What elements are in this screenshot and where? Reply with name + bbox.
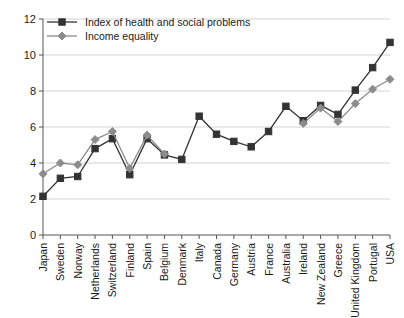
- y-tick-label: 0: [30, 229, 36, 241]
- data-point-marker: [92, 145, 98, 151]
- data-point-marker: [59, 19, 65, 25]
- legend-item: Income equality: [47, 30, 159, 42]
- y-axis: 024681012: [24, 13, 43, 241]
- data-point-marker: [74, 161, 82, 169]
- x-category-label: Netherlands: [89, 243, 101, 300]
- chart-container: 024681012 JapanSwedenNorwayNetherlandsSw…: [0, 0, 404, 318]
- data-point-marker: [196, 113, 202, 119]
- data-point-marker: [352, 87, 358, 93]
- data-point-marker: [40, 193, 46, 199]
- x-category-label: Greece: [332, 243, 344, 278]
- data-point-marker: [386, 75, 394, 83]
- data-point-marker: [108, 128, 116, 136]
- x-category-label: Canada: [211, 243, 223, 280]
- x-category-label: Portugal: [367, 243, 379, 282]
- data-point-marker: [56, 159, 64, 167]
- gridlines: [43, 19, 390, 199]
- legend-item: Index of health and social problems: [47, 16, 250, 28]
- data-point-marker: [75, 173, 81, 179]
- x-category-label: Spain: [141, 243, 153, 270]
- data-point-marker: [213, 131, 219, 137]
- legend-label: Index of health and social problems: [85, 16, 250, 28]
- y-tick-label: 10: [24, 49, 36, 61]
- data-point-marker: [179, 156, 185, 162]
- x-category-label: Switzerland: [106, 243, 118, 297]
- data-point-marker: [248, 144, 254, 150]
- data-point-marker: [335, 111, 341, 117]
- x-category-label: Sweden: [54, 243, 66, 281]
- x-category-label: New Zealand: [315, 243, 327, 305]
- x-category-label: Denmark: [176, 242, 188, 285]
- x-category-label: Ireland: [297, 243, 309, 275]
- y-tick-label: 12: [24, 13, 36, 25]
- x-category-label: Austria: [245, 243, 257, 276]
- y-tick-label: 6: [30, 121, 36, 133]
- data-point-marker: [57, 175, 63, 181]
- x-category-label: Japan: [37, 243, 49, 272]
- x-category-label: Finland: [124, 243, 136, 278]
- x-category-label: Italy: [193, 242, 205, 262]
- x-category-label: Belgium: [158, 243, 170, 281]
- line-chart: 024681012 JapanSwedenNorwayNetherlandsSw…: [0, 0, 404, 318]
- y-tick-label: 2: [30, 193, 36, 205]
- x-category-label: Norway: [72, 242, 84, 278]
- x-category-label: Germany: [228, 242, 240, 286]
- data-point-marker: [265, 128, 271, 134]
- data-point-marker: [387, 39, 393, 45]
- chart-legend: Index of health and social problemsIncom…: [47, 16, 250, 42]
- x-category-label: France: [263, 243, 275, 276]
- y-tick-label: 4: [30, 157, 36, 169]
- data-point-marker: [231, 138, 237, 144]
- x-category-label: USA: [384, 243, 396, 265]
- x-axis: JapanSwedenNorwayNetherlandsSwitzerlandF…: [37, 235, 396, 318]
- x-category-label: United Kingdom: [349, 243, 361, 318]
- legend-label: Income equality: [85, 30, 159, 42]
- x-category-label: Australia: [280, 243, 292, 284]
- data-point-marker: [39, 170, 47, 178]
- data-point-marker: [369, 64, 375, 70]
- y-tick-label: 8: [30, 85, 36, 97]
- data-point-marker: [58, 32, 66, 40]
- data-series: [39, 39, 394, 199]
- data-point-marker: [283, 103, 289, 109]
- data-point-marker: [91, 136, 99, 144]
